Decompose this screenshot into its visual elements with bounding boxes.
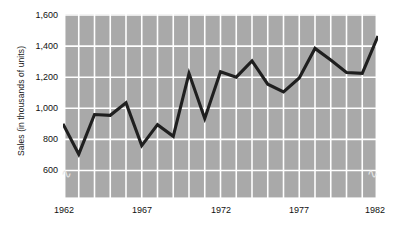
y-axis-break-icon-right: ∿	[367, 167, 378, 180]
plot-svg	[63, 12, 378, 200]
y-tick-label: 600	[12, 165, 58, 175]
y-tick-label: 800	[12, 134, 58, 144]
x-tick-label: 1967	[122, 205, 162, 215]
y-axis-tick-labels: 1,600 1,400 1,200 1,000 800 600	[10, 0, 58, 238]
x-tick-label: 1972	[201, 205, 241, 215]
sales-line-chart: Sales (in thousands of units) 1,600 1,40…	[0, 0, 393, 238]
grid-lines-vertical	[63, 12, 378, 200]
y-tick-label: 1,600	[12, 10, 58, 20]
x-tick-label: 1982	[355, 205, 393, 215]
x-axis-tick-labels: 1962 1967 1972 1977 1982	[0, 205, 393, 221]
plot-area: ∿ ∿	[63, 12, 378, 200]
x-tick-label: 1962	[44, 205, 84, 215]
x-tick-label: 1977	[279, 205, 319, 215]
y-tick-label: 1,000	[12, 103, 58, 113]
y-tick-label: 1,200	[12, 72, 58, 82]
y-tick-label: 1,400	[12, 41, 58, 51]
y-axis-break-icon-left: ∿	[61, 167, 72, 180]
